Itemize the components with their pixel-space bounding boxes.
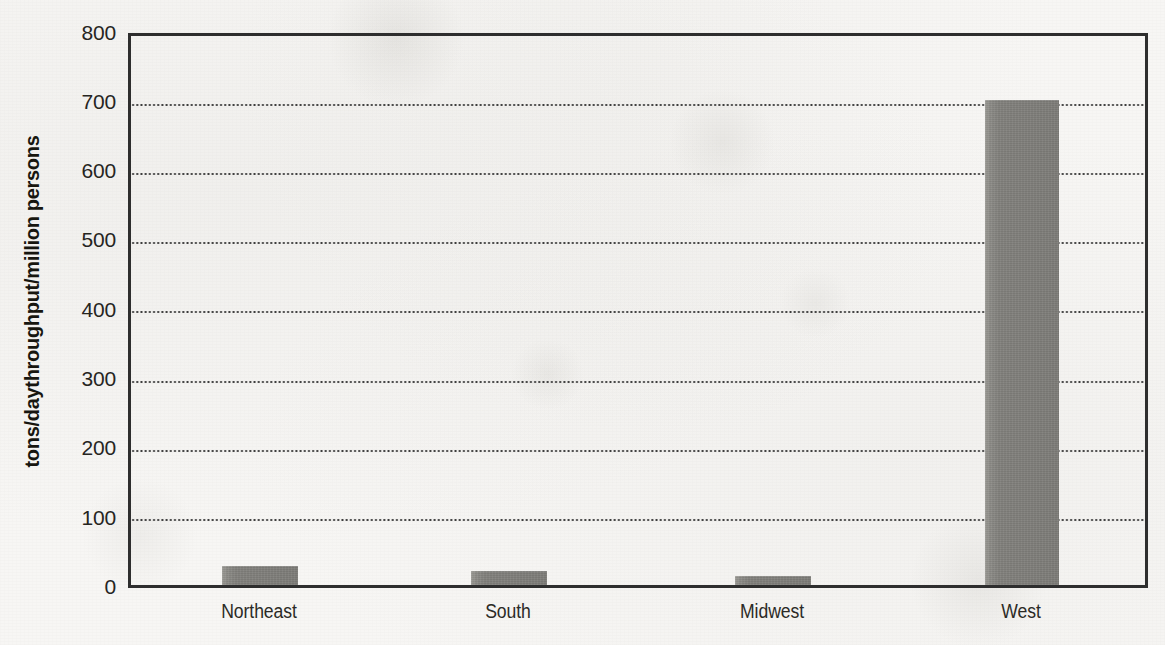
y-tick-label-100: 100	[0, 506, 116, 530]
y-tick-label-600: 600	[0, 159, 116, 183]
y-tick-label-200: 200	[0, 436, 116, 460]
plot-area	[128, 33, 1148, 588]
chart-page: tons/daythroughput/million persons 800 7…	[0, 0, 1165, 645]
bar-west[interactable]	[985, 100, 1059, 585]
y-tick-label-0: 0	[0, 575, 116, 599]
y-tick-label-500: 500	[0, 228, 116, 252]
x-tick-label-south: South	[420, 600, 596, 623]
y-tick-label-300: 300	[0, 367, 116, 391]
y-tick-label-800: 800	[0, 21, 116, 45]
x-tick-label-northeast: Northeast	[171, 600, 347, 623]
y-tick-label-400: 400	[0, 298, 116, 322]
bar-northeast[interactable]	[222, 566, 298, 585]
bar-south[interactable]	[471, 571, 547, 585]
y-tick-label-700: 700	[0, 90, 116, 114]
x-tick-label-midwest: Midwest	[684, 600, 860, 623]
x-tick-label-west: West	[933, 600, 1109, 623]
bar-midwest[interactable]	[735, 576, 811, 585]
